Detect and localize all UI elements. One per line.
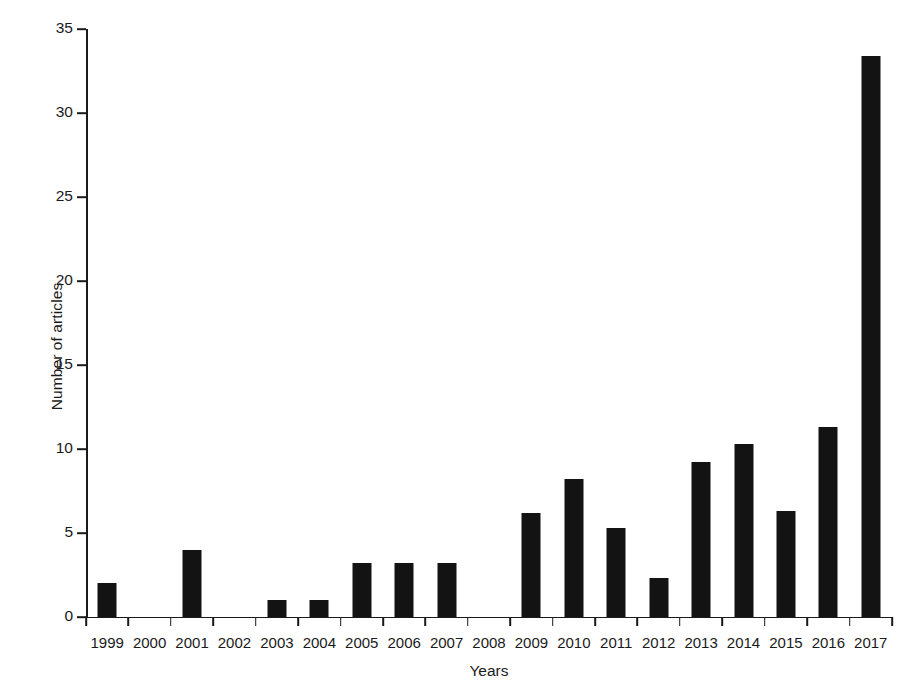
y-axis-tick-label: 20 [27, 271, 73, 289]
y-axis-tick-label: 25 [27, 187, 73, 205]
x-axis-tick [806, 617, 808, 626]
bar [183, 550, 202, 617]
bar [310, 600, 329, 617]
y-axis-tick-label: 30 [27, 103, 73, 121]
x-axis-tick [340, 617, 342, 626]
bar [776, 511, 795, 617]
bar [692, 462, 711, 617]
y-axis-tick-label: 0 [27, 607, 73, 625]
y-axis-tick-label: 5 [27, 523, 73, 541]
x-axis-tick [467, 617, 469, 626]
bar [395, 563, 414, 617]
y-axis-tick [77, 364, 86, 366]
x-axis-tick [637, 617, 639, 626]
y-axis-tick [77, 112, 86, 114]
y-axis-tick-label: 15 [27, 355, 73, 373]
x-axis-tick [764, 617, 766, 626]
y-axis-tick [77, 448, 86, 450]
x-axis-tick [891, 617, 893, 626]
bar [649, 578, 668, 617]
y-axis-tick [77, 196, 86, 198]
bar [267, 600, 286, 617]
x-axis-tick [849, 617, 851, 626]
bar [734, 444, 753, 617]
x-axis-title: Years [86, 662, 892, 680]
bar-chart: Number of articles 051015202530351999200… [0, 0, 907, 693]
x-axis-tick [255, 617, 257, 626]
bar [861, 56, 880, 617]
x-axis-tick [509, 617, 511, 626]
y-axis-tick [77, 28, 86, 30]
x-axis-tick [722, 617, 724, 626]
bar [437, 563, 456, 617]
x-axis-tick-label: 2017 [841, 634, 901, 651]
x-axis-tick [552, 617, 554, 626]
bar [607, 528, 626, 617]
bar [98, 583, 117, 617]
x-axis-tick [679, 617, 681, 626]
x-axis-tick [212, 617, 214, 626]
x-axis-tick [297, 617, 299, 626]
y-axis-tick [77, 532, 86, 534]
x-axis-tick [594, 617, 596, 626]
bar [819, 427, 838, 617]
bar [352, 563, 371, 617]
x-axis-tick [128, 617, 130, 626]
x-axis-tick [382, 617, 384, 626]
y-axis-tick-label: 10 [27, 439, 73, 457]
bar [522, 513, 541, 617]
x-axis-tick [85, 617, 87, 626]
plot-area: 0510152025303519992000200120022003200420… [86, 29, 892, 617]
y-axis-tick-label: 35 [27, 19, 73, 37]
x-axis-tick [425, 617, 427, 626]
x-axis-tick [170, 617, 172, 626]
y-axis-tick [77, 280, 86, 282]
bar [564, 479, 583, 617]
